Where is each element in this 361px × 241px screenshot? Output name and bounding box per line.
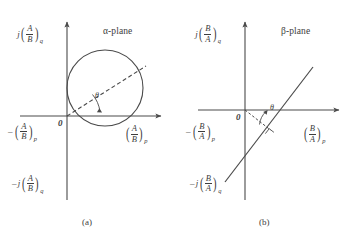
numerator: A bbox=[131, 124, 138, 133]
panel-a-circle-locus bbox=[67, 50, 143, 126]
fraction: B A bbox=[204, 24, 211, 43]
denominator: B bbox=[26, 35, 33, 44]
fraction-group: ( A B ) bbox=[21, 174, 40, 193]
numerator: B bbox=[198, 122, 205, 131]
panel-b-origin-label: 0 bbox=[236, 113, 241, 122]
fraction-group: ( A B ) bbox=[20, 24, 39, 43]
fraction: A B bbox=[131, 124, 138, 143]
panel-b-theta-label: θ bbox=[270, 104, 274, 112]
fraction: B A bbox=[309, 124, 316, 143]
panel-b-caption: (b) bbox=[259, 218, 270, 227]
denominator: A bbox=[204, 35, 211, 44]
subscript: q bbox=[218, 188, 221, 195]
panel-b-line-locus bbox=[225, 67, 313, 182]
fraction-group: ( B A ) bbox=[192, 122, 211, 141]
panel-a-imaginary-positive-label: j ( A B ) q bbox=[16, 21, 43, 44]
subscript: q bbox=[40, 188, 43, 195]
minus-sign: – bbox=[12, 179, 17, 188]
subscript: p bbox=[144, 138, 147, 145]
fraction-group: ( A B ) bbox=[125, 124, 144, 143]
numerator: A bbox=[27, 174, 34, 183]
panel-a-caption: (a) bbox=[82, 218, 92, 227]
fraction: B A bbox=[198, 122, 205, 141]
panel-a-theta-label: θ bbox=[95, 92, 99, 100]
subscript: p bbox=[322, 138, 325, 145]
minus-sign: – bbox=[8, 127, 13, 136]
fraction-group: ( A B ) bbox=[14, 122, 33, 141]
panel-a-plane-title: α-plane bbox=[103, 27, 132, 37]
panel-b-real-positive-label: ( B A ) p bbox=[301, 121, 325, 144]
panel-b-right-angle-marker bbox=[265, 129, 274, 134]
fraction-group: ( B A ) bbox=[303, 124, 322, 143]
numerator: B bbox=[309, 124, 316, 133]
panel-a-dashed-ray bbox=[67, 66, 146, 116]
panel-b-imaginary-positive-label: j ( B A ) q bbox=[194, 21, 221, 44]
panel-b-real-negative-label: – ( B A ) p bbox=[186, 121, 215, 141]
panel-b-plane-title: β-plane bbox=[281, 27, 310, 37]
numerator: A bbox=[26, 24, 33, 33]
panel-b-imaginary-negative-label: – j ( B A ) q bbox=[190, 173, 221, 193]
numerator: B bbox=[205, 174, 212, 183]
fraction: A B bbox=[20, 122, 27, 141]
fraction: B A bbox=[205, 174, 212, 193]
denominator: A bbox=[198, 132, 205, 141]
subscript: p bbox=[34, 136, 37, 143]
numerator: A bbox=[20, 122, 27, 131]
numerator: B bbox=[204, 24, 211, 33]
denominator: A bbox=[309, 135, 316, 144]
panel-a-real-positive-label: ( A B ) p bbox=[123, 121, 147, 144]
fraction-group: ( B A ) bbox=[198, 24, 217, 43]
fraction-group: ( B A ) bbox=[199, 174, 218, 193]
minus-sign: – bbox=[190, 179, 195, 188]
denominator: A bbox=[205, 184, 212, 193]
fraction: A B bbox=[26, 24, 33, 43]
denominator: B bbox=[20, 132, 27, 141]
panel-a-real-negative-label: – ( A B ) p bbox=[8, 121, 37, 141]
fraction: A B bbox=[27, 174, 34, 193]
panel-a-imaginary-negative-label: – j ( A B ) q bbox=[12, 173, 43, 193]
panel-a-theta-arrowhead bbox=[97, 108, 102, 112]
denominator: B bbox=[27, 184, 34, 193]
subscript: q bbox=[40, 38, 43, 45]
panel-a-origin-label: 0 bbox=[58, 119, 63, 128]
minus-sign: – bbox=[186, 127, 191, 136]
subscript: q bbox=[218, 38, 221, 45]
denominator: B bbox=[131, 135, 138, 144]
figure-root: α-plane j ( A B ) q – j ( bbox=[0, 0, 361, 241]
subscript: p bbox=[212, 136, 215, 143]
